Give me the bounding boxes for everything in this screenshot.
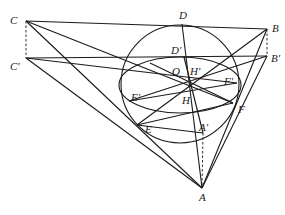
line-B'A	[202, 56, 267, 188]
label-H: H	[181, 94, 191, 106]
label-F: F	[237, 103, 245, 115]
label-A-prime: A'	[198, 121, 209, 133]
label-B-prime: B'	[271, 52, 281, 64]
label-C-prime: C'	[10, 60, 20, 72]
line-CB	[26, 21, 267, 29]
label-E: E	[144, 123, 152, 135]
label-D-prime: D'	[170, 44, 182, 56]
label-B: B	[272, 22, 279, 34]
dashed-A'A	[202, 133, 203, 188]
label-A: A	[198, 191, 206, 203]
line-C'F'	[26, 58, 237, 83]
line-DA	[182, 24, 202, 188]
label-F-prime: F'	[223, 75, 234, 87]
line-C'A	[26, 58, 202, 188]
label-D: D	[178, 9, 187, 21]
label-E-prime: E'	[130, 91, 141, 103]
diagram-svg: C C' B B' D D' O H' H E' E F' F A' A	[0, 0, 285, 215]
label-C: C	[10, 14, 18, 26]
geometry-diagram: C C' B B' D D' O H' H E' E F' F A' A	[0, 0, 285, 215]
label-O: O	[172, 65, 180, 77]
label-H-prime: H'	[189, 65, 201, 77]
